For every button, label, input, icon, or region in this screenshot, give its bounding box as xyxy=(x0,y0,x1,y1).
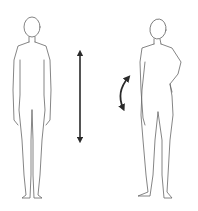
upright-figure-outline xyxy=(13,17,51,198)
double-arrow-curved-icon xyxy=(120,78,128,108)
posture-diagram: Upright standing posture Weight-shifted … xyxy=(0,0,198,211)
shifted-figure-outline xyxy=(138,18,181,198)
